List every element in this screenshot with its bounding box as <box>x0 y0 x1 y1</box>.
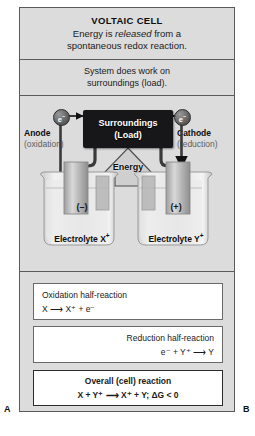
work-line-1: System does work on <box>84 66 170 78</box>
oxidation-half-reaction-box: Oxidation half-reaction X ⟶ X⁺ + e⁻ <box>33 283 223 320</box>
electron-left-charge: − <box>62 113 65 119</box>
overall-title: Overall (cell) reaction <box>42 375 214 388</box>
header-subtitle-line-2: spontaneous redox reaction. <box>67 40 187 52</box>
electrolyte-right-charge: + <box>200 232 204 239</box>
reduction-half-reaction-box: Reduction half-reaction e⁻ + Y⁺ ⟶ Y <box>33 326 223 363</box>
overall-reaction-box: Overall (cell) reaction X + Y⁺ ⟶ X⁺ + Y;… <box>33 370 223 406</box>
charge-sign-right: (+) <box>161 202 191 212</box>
header-sub-post: from a <box>152 28 182 39</box>
work-line-2: surroundings (load). <box>87 78 167 90</box>
electrolyte-left-label: Electrolyte X+ <box>38 232 126 244</box>
electrolyte-right-text: Electrolyte Y <box>148 234 199 244</box>
electrolyte-left-text: Electrolyte X <box>54 234 106 244</box>
header-sub-pre: Energy is <box>73 28 115 39</box>
diagram-panel: VOLTAIC CELL Energy is released from a s… <box>19 7 235 412</box>
energy-label: Energy <box>99 162 157 172</box>
figure-label-a: A <box>4 404 11 414</box>
surroundings-line-2: (Load) <box>114 129 142 141</box>
header-band: VOLTAIC CELL Energy is released from a s… <box>20 8 234 60</box>
overall-equation: X + Y⁺ ⟶ X⁺ + Y; ΔG < 0 <box>42 388 214 402</box>
salt-strip-left <box>96 176 109 210</box>
salt-strip-right <box>142 176 155 210</box>
surroundings-load-box: Surroundings (Load) <box>83 110 173 148</box>
electron-right-charge: − <box>183 113 186 119</box>
header-sub-emphasis: released <box>115 28 151 39</box>
reduction-title: Reduction half-reaction <box>42 332 214 345</box>
charge-sign-left: (–) <box>67 202 97 212</box>
figure-title: VOLTAIC CELL <box>91 15 162 26</box>
work-statement-band: System does work on surroundings (load). <box>20 60 234 96</box>
electrolyte-left-charge: + <box>106 232 110 239</box>
reduction-equation: e⁻ + Y⁺ ⟶ Y <box>42 345 214 359</box>
surroundings-line-1: Surroundings <box>99 117 158 129</box>
voltaic-cell-figure: A B VOLTAIC CELL Energy is released from… <box>0 0 255 436</box>
electron-left: e− <box>53 109 70 126</box>
header-subtitle-line-1: Energy is released from a <box>73 28 181 40</box>
oxidation-equation: X ⟶ X⁺ + e⁻ <box>42 302 214 316</box>
cell-diagram-area: e− e− Surroundings (Load) Energy Anode (… <box>20 96 234 272</box>
electrolyte-right-label: Electrolyte Y+ <box>132 232 220 244</box>
figure-label-b: B <box>243 404 250 414</box>
oxidation-title: Oxidation half-reaction <box>42 289 214 302</box>
electron-right: e− <box>174 109 191 126</box>
